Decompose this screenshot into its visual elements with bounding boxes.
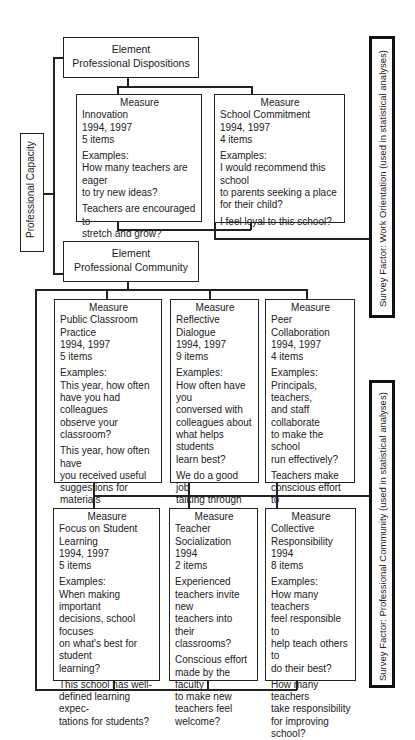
example-text: conscious effort to — [271, 482, 350, 507]
examples-label: Examples: — [82, 150, 197, 162]
example-text: and staff collaborate — [271, 404, 350, 429]
example-text: to try new ideas? — [82, 187, 197, 199]
example-text: have you had colleagues — [60, 392, 157, 417]
measure-name: Collective — [271, 523, 351, 535]
example-text: do their best? — [271, 663, 351, 675]
professional-capacity-label: Professional Capacity — [25, 141, 36, 238]
example-text: I would recommend this school — [220, 162, 340, 187]
connector — [35, 289, 37, 690]
measure-heading: Measure — [59, 511, 155, 523]
measure-name: Public Classroom — [60, 314, 157, 326]
example-text: This year, how often have — [60, 445, 157, 470]
connector — [214, 222, 216, 239]
example-text: welcome? — [175, 716, 253, 728]
measure-heading: Measure — [271, 302, 350, 314]
connector — [53, 57, 63, 59]
measure-heading: Measure — [220, 97, 340, 109]
example-text: teachers into their — [175, 613, 253, 638]
measure-focus-on-student-learning: Measure Focus on Student Learning 1994, … — [53, 508, 160, 681]
example-text: on what's best for student — [59, 638, 155, 663]
connector — [117, 86, 119, 94]
measure-items: 2 items — [175, 560, 253, 572]
example-text: decisions, school focuses — [59, 613, 155, 638]
element-name: Professional Dispositions — [64, 56, 198, 70]
measure-name: Reflective Dialogue — [176, 314, 254, 339]
element-professional-community: Element Professional Community — [63, 241, 199, 282]
example-text: Conscious effort — [175, 654, 253, 666]
connector — [127, 77, 129, 86]
example-text: Experienced — [175, 576, 253, 588]
element-heading: Element — [64, 42, 198, 56]
examples-label: Examples: — [60, 367, 157, 379]
measure-public-classroom-practice: Measure Public Classroom Practice 1994, … — [54, 299, 162, 483]
measure-school-commitment: Measure School Commitment 1994, 1997 4 i… — [214, 94, 345, 223]
measure-teacher-socialization: Measure Teacher Socialization 1994 2 ite… — [169, 508, 258, 681]
measure-years: 1994, 1997 — [60, 339, 157, 351]
measure-items: 5 items — [59, 560, 155, 572]
example-text: colleagues about — [176, 417, 254, 429]
example-text: Teachers make — [271, 470, 350, 482]
example-text: We do a good job — [176, 470, 254, 495]
example-text: How many teachers are eager — [82, 162, 197, 187]
measure-name: Teacher Socialization — [175, 523, 253, 548]
connector — [127, 281, 129, 289]
measure-items: 8 items — [271, 560, 351, 572]
example-text: for their child? — [220, 199, 340, 211]
example-text: Principals, teachers, — [271, 380, 350, 405]
connector — [53, 273, 63, 275]
connector — [306, 289, 308, 299]
example-text: learning? — [59, 663, 155, 675]
connector — [251, 86, 253, 94]
measure-name: Focus on Student — [59, 523, 155, 535]
example-text: This school has well- — [59, 679, 155, 691]
example-text: teachers invite new — [175, 589, 253, 614]
measure-name: Learning — [59, 536, 155, 548]
examples-label: Examples: — [271, 367, 350, 379]
connector — [214, 238, 369, 240]
examples-label: Examples: — [271, 576, 351, 588]
element-heading: Element — [64, 246, 198, 260]
measure-years: 1994, 1997 — [82, 122, 197, 134]
professional-capacity-box: Professional Capacity — [20, 133, 44, 252]
survey-factor-label: Survey Factor: Professional Community (u… — [377, 392, 388, 681]
example-text: How many teachers — [271, 679, 351, 704]
measure-innovation: Measure Innovation 1994, 1997 5 items Ex… — [76, 94, 202, 222]
example-text: This year, how often — [60, 380, 157, 392]
example-text: to make the school — [271, 429, 350, 454]
measure-years: 1994, 1997 — [59, 548, 155, 560]
example-text: feel responsible to — [271, 613, 351, 638]
measure-years: 1994, 1997 — [176, 339, 254, 351]
measure-name: Practice — [60, 327, 157, 339]
measure-peer-collaboration: Measure Peer Collaboration 1994, 1997 4 … — [265, 299, 355, 483]
example-text: classrooms? — [175, 638, 253, 650]
example-text: what helps students — [176, 429, 254, 454]
example-text: to make new — [175, 691, 253, 703]
measure-years: 1994, 1997 — [220, 122, 340, 134]
measure-name: Peer Collaboration — [271, 314, 350, 339]
example-text: you received useful — [60, 470, 157, 482]
example-text: conversed with — [176, 404, 254, 416]
element-name: Professional Community — [64, 260, 198, 274]
measure-collective-responsibility: Measure Collective Responsibility 1994 8… — [265, 508, 356, 681]
measure-heading: Measure — [176, 302, 254, 314]
measure-years: 1994, 1997 — [271, 339, 350, 351]
survey-factor-professional-community: Survey Factor: Professional Community (u… — [369, 380, 395, 688]
measure-items: 4 items — [271, 351, 350, 363]
example-text: help teach others to — [271, 638, 351, 663]
example-text: I feel loyal to this school? — [220, 216, 340, 228]
measure-years: 1994 — [271, 548, 351, 560]
measure-items: 4 items — [220, 134, 340, 146]
measure-years: 1994 — [175, 548, 253, 560]
measure-reflective-dialogue: Measure Reflective Dialogue 1994, 1997 9… — [170, 299, 259, 483]
example-text: How many teachers — [271, 589, 351, 614]
measure-name: Responsibility — [271, 536, 351, 548]
example-text: stretch and grow? — [82, 228, 197, 240]
measure-heading: Measure — [60, 302, 157, 314]
examples-label: Examples: — [176, 367, 254, 379]
connector — [53, 57, 55, 274]
example-text: talking through — [176, 494, 254, 506]
measure-items: 5 items — [60, 351, 157, 363]
example-text: tations for students? — [59, 716, 155, 728]
examples-label: Examples: — [59, 576, 155, 588]
example-text: suggestions for materials — [60, 482, 157, 507]
